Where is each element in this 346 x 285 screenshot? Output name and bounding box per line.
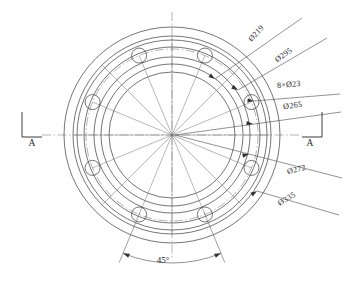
radial-line [103,135,172,204]
dimension-label-dia-219: Ø219 [246,23,265,43]
dimension-label-dia-265: Ø265 [283,100,303,112]
leader-arrow-dia-335 [250,191,257,196]
dimension-leaders-group [175,18,342,215]
radial-line [139,135,172,214]
technical-drawing-canvas: 45° AA Ø219Ø2958×Ø23Ø265Ø272Ø335 [0,0,346,285]
dimension-label-dia-272: Ø272 [286,163,307,176]
radial-line [139,56,172,135]
angle-dimension-arc [123,253,221,263]
radial-line [172,66,241,135]
leader-line-dia-272 [175,135,342,178]
radial-line [103,66,172,135]
leader-line-dia-335 [257,191,339,215]
angle-arrow-start [214,253,221,258]
section-bracket-section-a-left [22,112,42,137]
radial-line [172,56,205,135]
radial-lines-group [74,37,270,233]
leader-arrow-dia-272 [242,153,249,157]
flange-drawing-svg: 45° AA Ø219Ø2958×Ø23Ø265Ø272Ø335 [0,0,346,285]
dimension-label-holes-8x23: 8×Ø23 [277,79,302,90]
radial-line [93,102,172,135]
angle-arrow-end [123,253,130,258]
dimension-label-dia-335: Ø335 [276,190,297,208]
radial-line [93,135,172,168]
section-label-section-a-right: A [307,138,314,148]
dimension-label-dia-295: Ø295 [273,46,294,64]
radial-line [172,135,241,204]
radial-line [172,135,205,214]
angle-dimension-label: 45° [157,255,170,265]
section-label-section-a-left: A [29,138,36,148]
